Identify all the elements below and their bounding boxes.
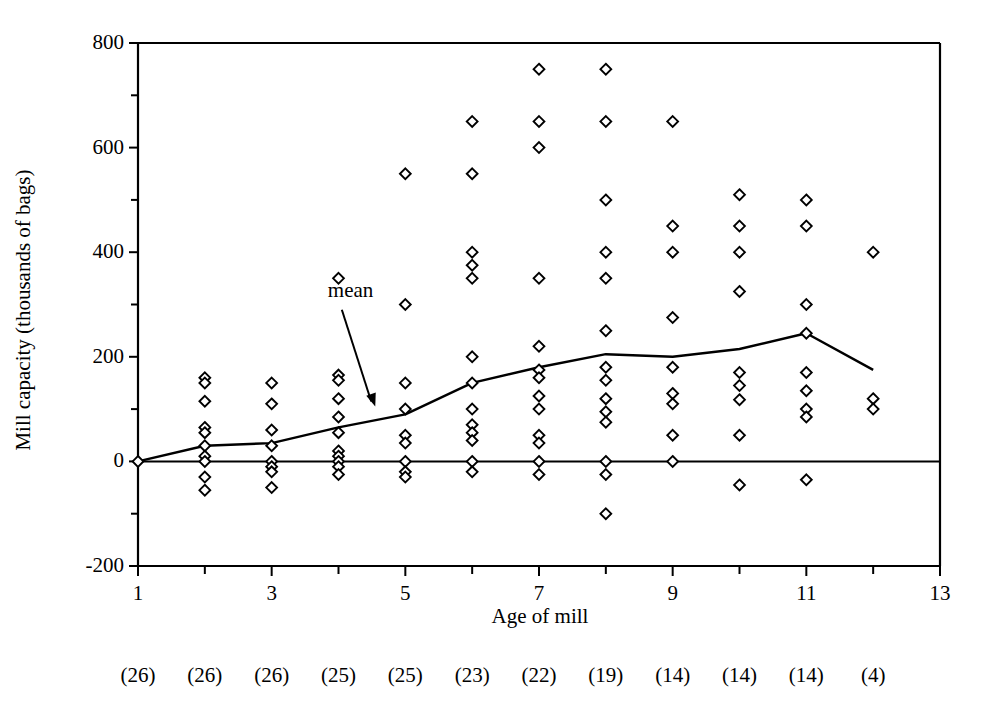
data-point: [734, 394, 745, 405]
data-point: [801, 221, 812, 232]
data-point: [534, 64, 545, 75]
data-point: [600, 508, 611, 519]
data-point: [600, 247, 611, 258]
data-point: [400, 299, 411, 310]
sample-count-label: (19): [573, 663, 639, 688]
data-point: [600, 64, 611, 75]
sample-count-label: (4): [840, 663, 906, 688]
y-axis-title: Mill capacity (thousands of bags): [6, 30, 40, 590]
data-point: [467, 435, 478, 446]
data-point: [467, 273, 478, 284]
data-point: [534, 438, 545, 449]
data-point: [467, 247, 478, 258]
data-point: [734, 380, 745, 391]
x-tick-label-13: 13: [900, 583, 980, 604]
y-tick-label-200: 200: [40, 346, 124, 367]
data-point: [467, 168, 478, 179]
data-point: [266, 425, 277, 436]
data-point: [534, 391, 545, 402]
y-tick-label-0: 0: [40, 450, 124, 471]
data-point: [667, 312, 678, 323]
data-point: [734, 189, 745, 200]
data-point: [199, 396, 210, 407]
data-point: [600, 417, 611, 428]
x-tick-label-3: 3: [232, 583, 312, 604]
data-point: [199, 485, 210, 496]
y-tick-label-400: 400: [40, 241, 124, 262]
data-point: [600, 116, 611, 127]
data-point: [600, 375, 611, 386]
data-point: [667, 362, 678, 373]
data-point: [667, 247, 678, 258]
data-point: [600, 456, 611, 467]
sample-count-label: (22): [506, 663, 572, 688]
x-axis-title: Age of mill: [380, 604, 700, 629]
sample-count-label: (26): [172, 663, 238, 688]
data-point: [400, 168, 411, 179]
sample-count-label: (25): [372, 663, 438, 688]
data-point: [534, 456, 545, 467]
data-point: [600, 325, 611, 336]
data-point: [266, 378, 277, 389]
data-point: [333, 393, 344, 404]
data-point: [801, 328, 812, 339]
data-point: [868, 247, 879, 258]
x-tick-label-7: 7: [499, 583, 579, 604]
data-point: [801, 299, 812, 310]
data-point: [467, 466, 478, 477]
mean-annotation-label: mean: [328, 278, 373, 303]
data-point: [534, 273, 545, 284]
data-point: [400, 378, 411, 389]
data-point: [467, 404, 478, 415]
sample-count-label: (23): [439, 663, 505, 688]
data-point: [400, 438, 411, 449]
data-point: [600, 469, 611, 480]
data-point: [467, 116, 478, 127]
mean-annotation-arrowhead: [366, 393, 375, 407]
sample-count-label: (26): [239, 663, 305, 688]
data-point: [266, 482, 277, 493]
data-point: [534, 469, 545, 480]
data-point: [600, 393, 611, 404]
y-tick-label-600: 600: [40, 137, 124, 158]
data-point: [734, 367, 745, 378]
sample-count-label: (26): [105, 663, 171, 688]
sample-count-label: (14): [707, 663, 773, 688]
data-point: [467, 260, 478, 271]
sample-count-label: (14): [640, 663, 706, 688]
y-tick-label-800: 800: [40, 32, 124, 53]
y-tick-label--200: -200: [40, 555, 124, 576]
data-point: [600, 273, 611, 284]
mean-annotation-leader: [342, 310, 371, 402]
data-point: [534, 372, 545, 383]
data-point: [534, 341, 545, 352]
data-point: [734, 247, 745, 258]
data-point: [801, 412, 812, 423]
x-tick-label-5: 5: [365, 583, 445, 604]
data-point: [734, 480, 745, 491]
data-point: [801, 385, 812, 396]
data-point: [600, 195, 611, 206]
x-tick-label-9: 9: [633, 583, 713, 604]
data-point: [534, 116, 545, 127]
data-point: [600, 362, 611, 373]
data-point: [801, 474, 812, 485]
data-point: [734, 286, 745, 297]
data-point: [801, 367, 812, 378]
data-point: [667, 116, 678, 127]
data-point: [133, 456, 144, 467]
mean-line: [138, 333, 873, 461]
x-tick-label-11: 11: [766, 583, 846, 604]
data-point: [734, 221, 745, 232]
data-point: [266, 398, 277, 409]
data-point: [667, 430, 678, 441]
sample-count-label: (25): [306, 663, 372, 688]
data-point: [868, 404, 879, 415]
sample-count-label: (14): [773, 663, 839, 688]
data-point: [667, 456, 678, 467]
data-point: [667, 398, 678, 409]
data-point: [534, 142, 545, 153]
data-point: [801, 195, 812, 206]
data-point: [534, 404, 545, 415]
data-point: [199, 472, 210, 483]
